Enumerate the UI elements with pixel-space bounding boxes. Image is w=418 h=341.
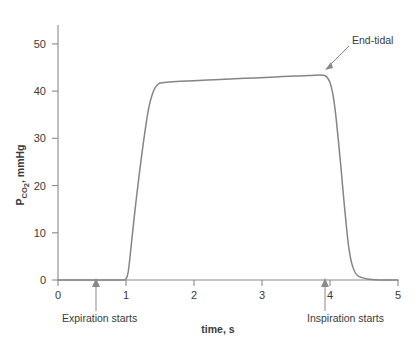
- chart-svg: 0 10 20 30 40 50 0 1 2 3 4 5: [0, 0, 418, 341]
- x-tick-label-4: 4: [327, 289, 333, 301]
- y-tick-label-20: 20: [34, 180, 46, 192]
- y-tick-label-30: 30: [34, 132, 46, 144]
- end-tidal-label: End-tidal: [352, 34, 393, 46]
- y-tick-label-40: 40: [34, 85, 46, 97]
- y-axis-title-tail: , mmHg: [14, 145, 26, 184]
- x-tick-label-3: 3: [259, 289, 265, 301]
- y-tick-label-50: 50: [34, 38, 46, 50]
- inspiration-starts-label: Inspiration starts: [307, 312, 384, 324]
- x-tick-label-2: 2: [191, 289, 197, 301]
- x-tick-label-1: 1: [123, 289, 129, 301]
- y-axis-title-main: P: [14, 198, 26, 205]
- chart-background: [0, 0, 418, 341]
- y-tick-label-10: 10: [34, 227, 46, 239]
- expiration-starts-label: Expiration starts: [62, 312, 137, 324]
- x-axis-title: time, s: [201, 323, 234, 335]
- x-tick-label-0: 0: [55, 289, 61, 301]
- x-tick-label-5: 5: [395, 289, 401, 301]
- y-tick-label-0: 0: [40, 274, 46, 286]
- y-axis-title-sub: CO: [20, 187, 29, 198]
- capnography-chart-figure: 0 10 20 30 40 50 0 1 2 3 4 5: [0, 0, 418, 341]
